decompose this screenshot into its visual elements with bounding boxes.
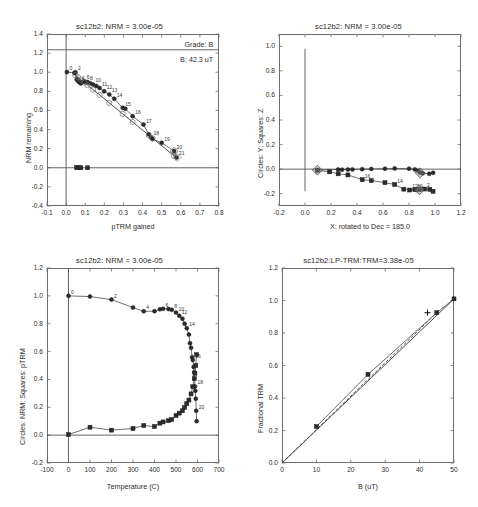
data-point: [161, 420, 165, 424]
data-point: [431, 189, 435, 193]
data-point: [407, 167, 411, 171]
y-tick-label: -0.2: [253, 190, 275, 197]
arai-yaxis-label: NRM remaining: [24, 113, 33, 163]
temperature-plot-panel: sc12b2: NRM = 3.00e-05 Temperature (C) C…: [0, 255, 239, 507]
x-tick-label: 10: [302, 466, 330, 473]
data-point-label: 2: [78, 65, 81, 71]
data-point: [142, 424, 146, 428]
data-point-label: 6: [166, 302, 169, 308]
data-point: [131, 114, 135, 118]
data-point-label: 19: [164, 136, 170, 142]
data-point: [369, 179, 373, 183]
data-point: [194, 364, 198, 368]
data-point-label: 14: [397, 178, 403, 184]
x-tick-label: 1.2: [447, 209, 475, 216]
data-point: [346, 168, 350, 172]
data-point: [112, 97, 116, 101]
arai-xaxis-label: pTRM gained: [47, 222, 219, 231]
y-tick-label: 1.4: [21, 30, 43, 37]
data-point: [88, 295, 92, 299]
y-tick-label: 0.8: [21, 87, 43, 94]
data-point-label: 14: [189, 321, 195, 327]
data-point: [336, 168, 340, 172]
data-point-label: 16: [195, 353, 201, 359]
data-point: [188, 341, 192, 345]
data-point-label: 2: [114, 293, 117, 299]
zijderveld-plot-canvas: [239, 0, 478, 255]
data-point: [425, 310, 431, 316]
zijderveld-xaxis-label: X: rotated to Dec = 185.0: [279, 222, 461, 231]
data-point: [183, 405, 187, 409]
data-point-label: 4: [82, 75, 85, 81]
y-tick-label: 0.6: [21, 348, 43, 355]
data-point: [110, 428, 114, 432]
data-point: [67, 433, 71, 437]
data-point: [427, 172, 431, 176]
data-point: [193, 389, 197, 393]
data-point: [65, 70, 69, 74]
data-point-label: 8: [90, 75, 93, 81]
data-point-label: 16: [365, 173, 371, 179]
x-tick-label: 0.8: [395, 209, 423, 216]
data-point-label: 10: [96, 77, 102, 83]
data-point: [123, 107, 127, 111]
data-point: [170, 308, 174, 312]
data-point-label: 8: [174, 303, 177, 309]
x-tick-label: 700: [205, 466, 233, 473]
data-point: [336, 172, 340, 176]
data-point: [408, 188, 412, 192]
data-point: [191, 358, 195, 362]
data-point: [170, 418, 174, 422]
y-tick-label: 0.6: [253, 91, 275, 98]
data-point: [360, 167, 364, 171]
trm-acquisition-panel: sc12b2:LP-TRM:TRM=3.38e-05 B (uT) Fracti…: [239, 255, 478, 507]
data-point: [402, 187, 406, 191]
data-point: [172, 149, 176, 153]
y-tick-label: 0.8: [21, 320, 43, 327]
x-tick-label: 30: [371, 466, 399, 473]
data-point: [160, 141, 164, 145]
data-point: [346, 173, 350, 177]
data-point-label: 18: [197, 379, 203, 385]
y-tick-label: -0.2: [21, 183, 43, 190]
data-point: [195, 419, 199, 423]
ptrm-gained-line: [69, 355, 197, 435]
y-tick-label: 1.0: [21, 68, 43, 75]
data-point: [383, 167, 387, 171]
data-point: [383, 181, 387, 185]
data-point: [369, 167, 373, 171]
x-tick-label: 0.4: [343, 209, 371, 216]
y-tick-label: -0.2: [21, 459, 43, 466]
x-tick-label: 20: [337, 466, 365, 473]
data-point-label: 20: [199, 404, 205, 410]
data-point: [187, 398, 191, 402]
y-tick-label: 0.0: [21, 431, 43, 438]
data-point: [88, 425, 92, 429]
pmag-four-panel-figure: sc12b2: NRM = 3.00e-05 pTRM gained NRM r…: [0, 0, 478, 507]
y-tick-label: 1.0: [256, 297, 278, 304]
y-tick-label: 0.4: [253, 116, 275, 123]
x-tick-label: 40: [406, 466, 434, 473]
data-point: [161, 307, 165, 311]
y-tick-label: 0.6: [256, 362, 278, 369]
data-point: [431, 171, 435, 175]
data-point: [183, 322, 187, 326]
data-point-label: 0: [71, 289, 74, 295]
y-tick-label: 0.4: [256, 394, 278, 401]
y-tick-label: 1.2: [256, 264, 278, 271]
data-point: [435, 311, 439, 315]
trm-xaxis-label: B (uT): [282, 482, 454, 491]
y-tick-label: 0.2: [256, 427, 278, 434]
data-point: [131, 306, 135, 310]
data-point: [185, 326, 189, 330]
data-point: [360, 178, 364, 182]
data-point-label: 21: [179, 150, 185, 156]
data-point: [79, 166, 83, 170]
y-tick-label: 0.6: [21, 106, 43, 113]
y-tick-label: 1.0: [253, 42, 275, 49]
data-point-label: 14: [117, 92, 123, 98]
data-point: [393, 166, 397, 170]
y-tick-label: 0.8: [253, 67, 275, 74]
data-point: [142, 309, 146, 313]
data-point: [189, 346, 193, 350]
